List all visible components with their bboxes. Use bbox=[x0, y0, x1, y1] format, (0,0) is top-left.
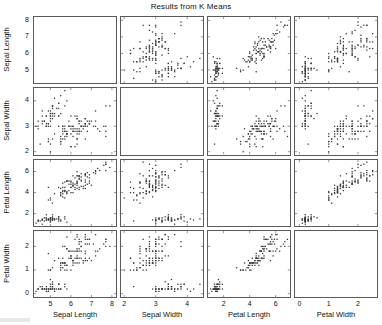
y-tick-label-row4-0: 0 bbox=[11, 289, 29, 296]
scatter-points bbox=[34, 88, 116, 154]
scatter-points bbox=[34, 231, 116, 297]
x-tick-label-col4-1: 1 bbox=[320, 300, 338, 307]
scatter-cell-r3-c2 bbox=[120, 159, 204, 227]
scatter-cell-r4-c4 bbox=[294, 230, 378, 298]
x-tick-label-col3-2: 6 bbox=[267, 300, 285, 307]
y-tick-label-row1-3: 8 bbox=[11, 16, 29, 23]
scatter-cell-r2-c1 bbox=[33, 87, 117, 155]
scatter-points bbox=[208, 88, 290, 154]
x-tick-label-col1-2: 7 bbox=[82, 300, 100, 307]
x-tick-label-col1-1: 6 bbox=[62, 300, 80, 307]
x-tick-label-col3-1: 4 bbox=[241, 300, 259, 307]
scatter-cell-r4-c1 bbox=[33, 230, 117, 298]
x-tick-label-col2-1: 3 bbox=[147, 300, 165, 307]
x-tick-label-col3-0: 2 bbox=[215, 300, 233, 307]
y-axis-label-petal-width: Petal Width bbox=[2, 229, 11, 297]
scatter-plot-matrix-figure: Results from K Means 5678Sepal Length234… bbox=[0, 0, 382, 325]
scatter-points bbox=[208, 17, 290, 83]
scatter-cell-r3-c1 bbox=[33, 159, 117, 227]
y-tick-label-row2-2: 4 bbox=[11, 96, 29, 103]
scatter-cell-r4-c3 bbox=[207, 230, 291, 298]
y-axis-label-petal-length: Petal Length bbox=[2, 158, 11, 226]
scatter-cell-r1-c3 bbox=[207, 16, 291, 84]
x-tick-label-col4-0: 0 bbox=[290, 300, 308, 307]
y-axis-label-sepal-width: Sepal Width bbox=[2, 87, 11, 155]
scatter-points bbox=[34, 160, 116, 226]
x-axis-label-petal-width: Petal Width bbox=[294, 310, 378, 319]
x-tick-label-col1-0: 5 bbox=[41, 300, 59, 307]
chart-title: Results from K Means bbox=[0, 2, 382, 11]
scatter-cell-r2-c2 bbox=[120, 87, 204, 155]
y-tick-label-row3-2: 6 bbox=[11, 167, 29, 174]
scatter-points bbox=[121, 231, 203, 297]
scatter-cell-r2-c4 bbox=[294, 87, 378, 155]
scatter-points bbox=[295, 160, 377, 226]
x-tick-label-col2-0: 2 bbox=[115, 300, 133, 307]
y-tick-label-row2-1: 3 bbox=[11, 122, 29, 129]
scatter-points bbox=[121, 17, 203, 83]
scatter-cell-r1-c1 bbox=[33, 16, 117, 84]
scatter-points bbox=[121, 160, 203, 226]
y-tick-label-row4-2: 2 bbox=[11, 242, 29, 249]
y-tick-label-row2-0: 2 bbox=[11, 147, 29, 154]
scatter-cell-r1-c4 bbox=[294, 16, 378, 84]
x-axis-label-sepal-width: Sepal Width bbox=[120, 310, 204, 319]
y-tick-label-row1-1: 6 bbox=[11, 49, 29, 56]
y-axis-label-sepal-length: Sepal Length bbox=[2, 16, 11, 84]
scatter-cell-r1-c2 bbox=[120, 16, 204, 84]
bottom-edge-artifact bbox=[0, 318, 30, 322]
x-tick-label-col4-2: 2 bbox=[349, 300, 367, 307]
scatter-points bbox=[295, 17, 377, 83]
y-tick-label-row3-1: 4 bbox=[11, 188, 29, 195]
x-axis-label-sepal-length: Sepal Length bbox=[33, 310, 117, 319]
scatter-cell-r4-c2 bbox=[120, 230, 204, 298]
scatter-cell-r3-c4 bbox=[294, 159, 378, 227]
scatter-points bbox=[295, 88, 377, 154]
scatter-cell-r3-c3 bbox=[207, 159, 291, 227]
y-tick-label-row1-2: 7 bbox=[11, 32, 29, 39]
x-axis-label-petal-length: Petal Length bbox=[207, 310, 291, 319]
matrix-grid bbox=[33, 16, 378, 298]
scatter-cell-r2-c3 bbox=[207, 87, 291, 155]
y-tick-label-row3-0: 2 bbox=[11, 209, 29, 216]
x-tick-label-col2-2: 4 bbox=[178, 300, 196, 307]
y-tick-label-row1-0: 5 bbox=[11, 66, 29, 73]
y-tick-label-row4-1: 1 bbox=[11, 265, 29, 272]
scatter-points bbox=[208, 231, 290, 297]
